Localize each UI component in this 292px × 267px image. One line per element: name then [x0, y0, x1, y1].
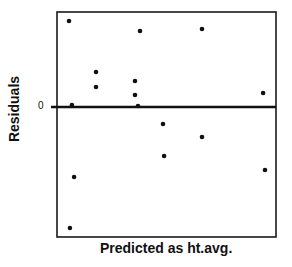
data-point: [261, 91, 266, 96]
plot-frame: [57, 12, 276, 237]
data-point: [200, 135, 205, 140]
x-axis-label: Predicted as ht.avg.: [100, 240, 232, 256]
y-tick-label-zero: 0: [38, 100, 44, 111]
y-axis-label: Residuals: [6, 76, 22, 142]
data-point: [136, 104, 141, 109]
data-point: [138, 29, 143, 34]
data-point: [263, 168, 268, 173]
data-point: [67, 19, 72, 24]
plot-area: [0, 0, 292, 267]
data-point: [72, 175, 77, 180]
data-point: [133, 79, 138, 84]
data-point: [68, 226, 73, 231]
data-point: [162, 154, 167, 159]
data-point: [94, 70, 99, 75]
data-point: [133, 93, 138, 98]
residual-plot: [0, 0, 292, 267]
data-point: [200, 27, 205, 32]
data-point: [70, 103, 75, 108]
y-axis-label-container: Residuals: [4, 64, 24, 154]
data-point: [94, 85, 99, 90]
data-point: [161, 122, 166, 127]
